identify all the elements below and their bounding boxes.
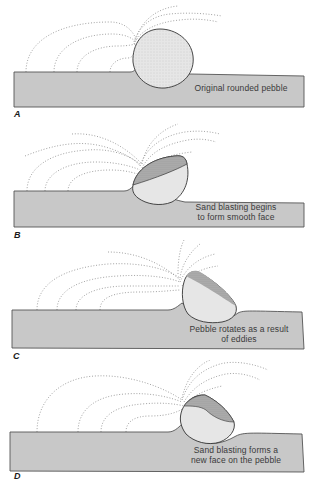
caption: Sand blasting begins to form smooth face [186, 202, 286, 222]
panel-label: D [14, 471, 21, 481]
caption-line: of eddies [186, 334, 292, 344]
caption-line: Sand blasting forms a [186, 445, 286, 455]
wind-flow-lines [25, 124, 220, 191]
caption-line: Pebble rotates as a result [186, 324, 292, 334]
panel-a: Original rounded pebble A [0, 0, 315, 121]
panel-b-illustration [0, 120, 315, 241]
panel-label: B [14, 230, 21, 240]
panel-b: Sand blasting begins to form smooth face… [0, 120, 315, 241]
caption-line: Original rounded pebble [186, 83, 296, 93]
caption-line: new face on the pebble [186, 455, 286, 465]
pebble [182, 271, 236, 323]
pebble [180, 395, 234, 444]
panel-d: Sand blasting forms a new face on the pe… [0, 360, 315, 484]
panel-d-illustration [0, 360, 315, 484]
caption: Original rounded pebble [186, 83, 296, 93]
caption: Pebble rotates as a result of eddies [186, 324, 292, 344]
panel-a-illustration [0, 0, 315, 121]
caption-line: to form smooth face [186, 212, 286, 222]
panel-c: Pebble rotates as a result of eddies C [0, 240, 315, 361]
ventifact-formation-diagram: Original rounded pebble A [0, 0, 315, 484]
caption-line: Sand blasting begins [186, 202, 286, 212]
panel-label: A [14, 109, 21, 119]
caption: Sand blasting forms a new face on the pe… [186, 445, 286, 465]
pebble [133, 29, 193, 88]
